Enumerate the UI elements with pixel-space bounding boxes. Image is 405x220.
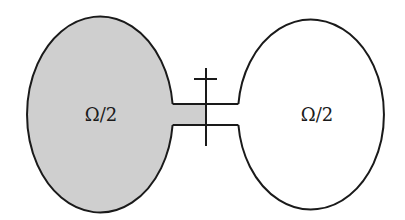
left-domain-label: Ω/2: [85, 104, 117, 125]
right-domain-label: Ω/2: [301, 104, 333, 125]
left-domain-fill: [27, 16, 240, 212]
left-domain: [27, 16, 240, 212]
dumbbell-diagram: Ω/2 Ω/2: [0, 0, 405, 220]
